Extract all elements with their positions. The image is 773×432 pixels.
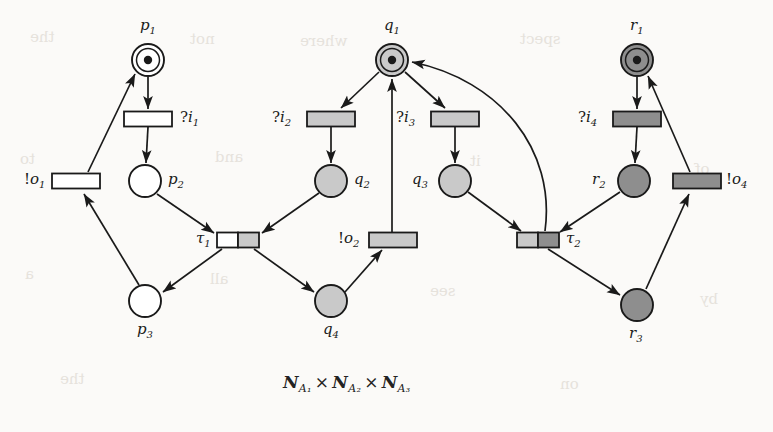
transition-label-i1: ?i1 — [180, 110, 199, 128]
transition-bar-t2-seg1 — [517, 233, 538, 248]
caption-n1: N — [283, 372, 299, 392]
caption-sub3: A₃ — [398, 382, 411, 395]
transition-bar-t2-seg2 — [538, 233, 559, 248]
transition-i2[interactable] — [307, 112, 355, 127]
place-r1[interactable] — [621, 44, 653, 76]
place-label-p1: p1 — [140, 18, 156, 36]
arc-i1-p2 — [146, 127, 148, 163]
transition-bar-i4-seg1 — [613, 112, 661, 127]
place-circle-r2 — [618, 165, 650, 197]
place-label-q4: q4 — [323, 322, 339, 340]
place-p2[interactable] — [129, 165, 161, 197]
transition-o1[interactable] — [52, 174, 100, 189]
caption-times2: × — [361, 372, 382, 392]
arc-q3-t2 — [468, 192, 521, 231]
arc-t2-q1-curved — [412, 62, 546, 231]
place-q2[interactable] — [315, 165, 347, 197]
caption-n3: N — [382, 372, 398, 392]
arc-r3-o4 — [646, 194, 689, 289]
place-circle-p2 — [129, 165, 161, 197]
place-label-r2: r2 — [592, 172, 606, 190]
petri-net-figure: the not where spect to and it of a all s… — [0, 0, 773, 432]
arc-r2-t2 — [560, 192, 620, 232]
arc-p2-t1 — [157, 194, 214, 233]
caption-sub2: A₂ — [348, 382, 361, 395]
arc-q1-i2 — [341, 72, 379, 108]
transition-label-o4: !o4 — [726, 172, 747, 190]
place-label-q2: q2 — [354, 172, 370, 190]
place-label-p2: p2 — [168, 172, 184, 190]
transition-label-t2: τ2 — [566, 231, 581, 249]
transition-bar-o2-seg1 — [369, 233, 417, 248]
place-label-r1: r1 — [630, 18, 644, 36]
transition-label-i4: ?i4 — [578, 110, 597, 128]
transition-t1[interactable] — [217, 233, 259, 248]
arc-q1-i3 — [405, 72, 445, 108]
transition-bar-t1-seg1 — [217, 233, 238, 248]
transition-bar-o1-seg1 — [52, 174, 100, 189]
place-q4[interactable] — [315, 285, 347, 317]
transition-label-o1: !o1 — [24, 172, 45, 190]
caption-n2: N — [332, 372, 348, 392]
place-circle-q2 — [315, 165, 347, 197]
token-dot-p1 — [144, 56, 152, 64]
arc-t1-p3 — [163, 249, 222, 292]
transition-label-i2: ?i2 — [272, 110, 291, 128]
place-circle-p3 — [129, 285, 161, 317]
place-r2[interactable] — [618, 165, 650, 197]
petri-net-graph — [0, 0, 773, 432]
place-circle-q4 — [315, 285, 347, 317]
place-label-q1: q1 — [384, 18, 400, 36]
place-circle-r3 — [621, 289, 653, 321]
transition-t2[interactable] — [517, 233, 559, 248]
transition-label-o2: !o2 — [338, 231, 359, 249]
token-dot-r1 — [633, 56, 641, 64]
transition-bar-i1-seg1 — [124, 112, 172, 127]
transition-i3[interactable] — [431, 112, 479, 127]
arc-q2-t1 — [262, 193, 319, 233]
place-label-r3: r3 — [629, 326, 643, 344]
node-layer — [52, 44, 721, 321]
transition-o2[interactable] — [369, 233, 417, 248]
transition-label-i3: ?i3 — [396, 110, 415, 128]
token-dot-q1 — [388, 56, 396, 64]
figure-caption: NA₁×NA₂×NA₃ — [283, 372, 411, 395]
arc-t2-r3 — [548, 249, 620, 295]
transition-i4[interactable] — [613, 112, 661, 127]
transition-o4[interactable] — [673, 174, 721, 189]
arc-i4-r2 — [635, 127, 637, 163]
place-circle-q3 — [439, 165, 471, 197]
transition-label-t1: τ1 — [196, 231, 211, 249]
transition-bar-i3-seg1 — [431, 112, 479, 127]
place-label-p3: p3 — [137, 322, 153, 340]
transition-bar-t1-seg2 — [238, 233, 259, 248]
arc-t1-q4 — [254, 249, 314, 292]
place-q3[interactable] — [439, 165, 471, 197]
caption-sub1: A₁ — [299, 382, 312, 395]
transition-bar-i2-seg1 — [307, 112, 355, 127]
place-q1[interactable] — [376, 44, 408, 76]
transition-bar-o4-seg1 — [673, 174, 721, 189]
arc-p3-o1 — [84, 194, 139, 285]
caption-times1: × — [312, 372, 333, 392]
place-label-q3: q3 — [412, 172, 428, 190]
transition-i1[interactable] — [124, 112, 172, 127]
place-p3[interactable] — [129, 285, 161, 317]
place-r3[interactable] — [621, 289, 653, 321]
arc-q4-o2 — [345, 250, 382, 292]
place-p1[interactable] — [132, 44, 164, 76]
